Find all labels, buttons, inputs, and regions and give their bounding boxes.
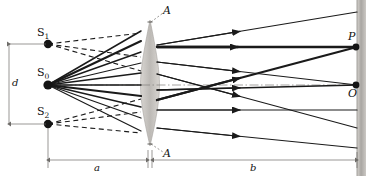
label-source-s0: S0 [37,67,49,81]
label-s0-main: S [37,66,45,79]
label-dimension-d: d [12,78,18,88]
screen-shape [357,0,366,176]
ray-s1-b [48,44,141,57]
ray-s0-i3 [48,52,141,85]
label-s1-main: S [37,26,45,39]
label-dimension-b: b [250,163,256,173]
label-source-s2: S2 [37,106,49,120]
label-dimension-a: a [94,163,100,173]
leader-A-top [151,13,163,22]
optics-diagram-figure: S1 S0 S2 P O A A d a b [0,0,370,176]
ray-s2-c [48,99,141,124]
ray-s2-a [48,124,141,133]
rays-from-s0-incident [48,31,141,131]
ray-out-8-arrow [157,128,240,137]
source-dot-s0 [43,80,52,89]
label-lens-aperture-top: A [163,5,171,16]
label-point-p: P [348,31,355,42]
ray-s0-i10 [48,85,141,131]
label-s2-sub: 2 [45,111,50,120]
leader-A-bottom [151,144,163,152]
ray-s0-i1 [48,31,141,85]
lens-shape [141,20,160,146]
ray-out-4-arrow [157,62,240,72]
label-s0-sub: 0 [45,72,50,81]
rays-after-lens [157,12,357,148]
image-dot-p [353,44,360,51]
ray-s2-b [48,112,141,124]
ray-s0-i4 [48,63,141,85]
label-lens-aperture-bottom: A [163,148,171,159]
ray-s0-i8 [48,85,141,107]
screen-plane [357,0,366,176]
label-point-o: O [348,88,357,99]
label-s2-main: S [37,105,45,118]
label-s1-sub: 1 [45,32,50,41]
ray-out-1-arrow [157,31,240,45]
label-source-s1: S1 [37,27,49,41]
ray-diagram-canvas [0,0,370,176]
lens-element [141,20,160,146]
